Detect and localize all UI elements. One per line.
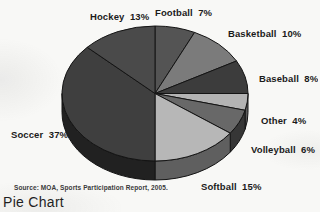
chart-caption: Pie Chart: [3, 194, 64, 210]
pie-chart-figure: Football 7%Basketball 10%Baseball 8%Othe…: [0, 0, 318, 212]
pie-chart: [0, 0, 318, 212]
source-note: Source: MOA, Sports Participation Report…: [14, 184, 168, 191]
